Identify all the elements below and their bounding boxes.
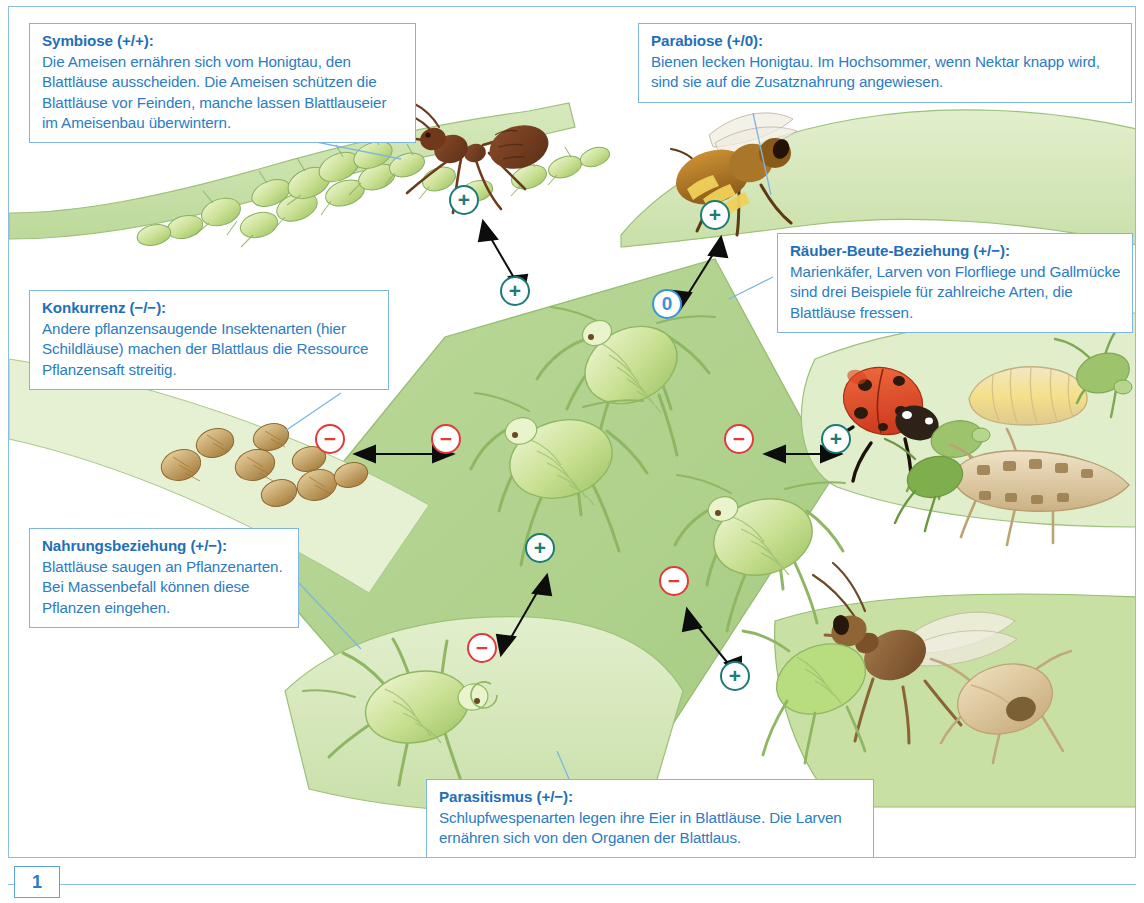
sign-badge-konkurrenz-aphid: − [431, 424, 461, 454]
sign-badge-nahrung-plant: − [467, 633, 497, 663]
sign-badge-parabiose-aphid: 0 [652, 289, 682, 319]
sign-badge-parabiose-bee: + [700, 200, 730, 230]
sign-badge-symbol: − [668, 570, 680, 591]
callout-parabiose-title: Parabiose (+/0): [651, 31, 1120, 51]
figure-page: Symbiose (+/+): Die Ameisen ernähren sic… [0, 0, 1144, 903]
callout-parabiose-body: Bienen lecken Honigtau. Im Hochsommer, w… [651, 52, 1120, 92]
sign-badge-symbiose-aphid: + [500, 276, 530, 306]
sign-badge-symbol: + [458, 189, 470, 210]
callout-parasit-title: Parasitismus (+/−): [439, 787, 862, 807]
sign-badge-nahrung-aphid: + [525, 533, 555, 563]
callout-konkurrenz: Konkurrenz (−/−): Andere pflanzensaugend… [29, 290, 389, 390]
callout-nahrung-body: Blattläuse saugen an Pflanzenarten. Bei … [42, 557, 287, 618]
footer-rule [8, 884, 1136, 885]
sign-badge-symbol: − [324, 428, 336, 449]
callout-parasit-body: Schlupfwespenarten legen ihre Eier in Bl… [439, 808, 862, 848]
sign-badge-symbiose-ant: + [449, 185, 479, 215]
callout-raeuber-beute: Räuber-Beute-Beziehung (+/−): Marienkäfe… [777, 233, 1133, 333]
sign-badge-symbol: + [509, 280, 521, 301]
sign-badge-symbol: − [440, 428, 452, 449]
page-number-label: 1 [32, 872, 42, 893]
sign-badge-symbol: − [733, 428, 745, 449]
sign-badge-symbol: 0 [662, 294, 673, 313]
callout-symbiose-title: Symbiose (+/+): [42, 31, 404, 51]
callout-raeuber-body: Marienkäfer, Larven von Florfliege und G… [790, 262, 1121, 323]
callout-konkurrenz-title: Konkurrenz (−/−): [42, 298, 377, 318]
sign-badge-parasit-wasp: + [720, 661, 750, 691]
callout-parabiose: Parabiose (+/0): Bienen lecken Honigtau.… [638, 23, 1132, 103]
sign-badge-symbol: + [709, 204, 721, 225]
sign-badge-konkurrenz-scale: − [315, 424, 345, 454]
sign-badge-parasit-aphid: − [659, 566, 689, 596]
page-number: 1 [14, 866, 60, 898]
figure-frame: Symbiose (+/+): Die Ameisen ernähren sic… [8, 6, 1136, 858]
sign-badge-symbol: + [830, 428, 842, 449]
sign-badge-raeuber-aphid: − [724, 424, 754, 454]
callout-nahrung-title: Nahrungsbeziehung (+/−): [42, 536, 287, 556]
sign-badge-raeuber-predator: + [821, 424, 851, 454]
sign-badge-symbol: + [534, 537, 546, 558]
callout-symbiose-body: Die Ameisen ernähren sich vom Honigtau, … [42, 52, 404, 133]
callout-raeuber-title: Räuber-Beute-Beziehung (+/−): [790, 241, 1121, 261]
callout-symbiose: Symbiose (+/+): Die Ameisen ernähren sic… [29, 23, 416, 143]
callout-konkurrenz-body: Andere pflanzensaugende Insektenarten (h… [42, 319, 377, 380]
callout-nahrungsbeziehung: Nahrungsbeziehung (+/−): Blattläuse saug… [29, 528, 299, 628]
callout-parasitismus: Parasitismus (+/−): Schlupfwespenarten l… [426, 779, 874, 858]
sign-badge-symbol: − [476, 637, 488, 658]
sign-badge-symbol: + [729, 665, 741, 686]
